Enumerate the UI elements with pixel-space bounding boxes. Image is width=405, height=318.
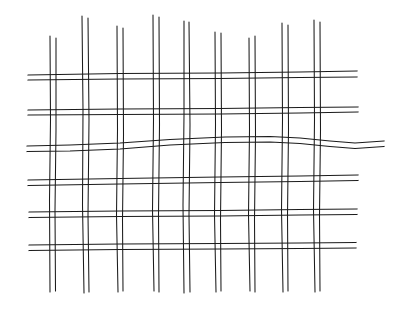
- strand-edge-line: [88, 18, 89, 292]
- woven-mesh-drawing: [0, 0, 405, 318]
- figure-background: [0, 0, 405, 318]
- mesh-figure: Hand-drawn line illustration of a plain-…: [0, 0, 405, 318]
- strand-edge-line: [189, 22, 190, 292]
